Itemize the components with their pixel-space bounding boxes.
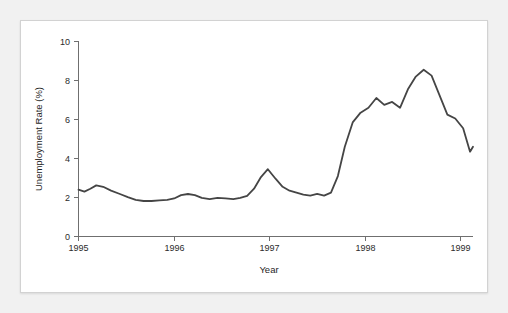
x-axis-ticks (79, 237, 461, 242)
y-tick-label-6: 6 (65, 115, 70, 125)
x-tick-label-1998: 1998 (355, 243, 375, 253)
y-axis-tick-labels: 0 2 4 6 8 10 (60, 37, 70, 242)
y-tick-label-8: 8 (65, 76, 70, 86)
y-tick-label-4: 4 (65, 154, 70, 164)
x-axis-title: Year (259, 264, 278, 275)
x-tick-label-1997: 1997 (259, 243, 279, 253)
x-axis-tick-labels: 1995 1996 1997 1998 1999 (68, 243, 470, 253)
y-tick-label-10: 10 (60, 37, 70, 47)
series-line-unemployment-rate (79, 70, 474, 201)
screenshot-root: 0 2 4 6 8 10 1995 1996 1997 1998 1999 Ye… (0, 0, 508, 313)
x-tick-label-1996: 1996 (164, 243, 184, 253)
x-tick-label-1999: 1999 (450, 243, 470, 253)
y-tick-label-2: 2 (65, 193, 70, 203)
y-axis-ticks (74, 42, 79, 237)
y-tick-label-0: 0 (65, 232, 70, 242)
x-tick-label-1995: 1995 (68, 243, 88, 253)
y-axis-title: Unemployment Rate (%) (33, 87, 44, 191)
unemployment-rate-line-chart: 0 2 4 6 8 10 1995 1996 1997 1998 1999 Ye… (0, 0, 508, 313)
